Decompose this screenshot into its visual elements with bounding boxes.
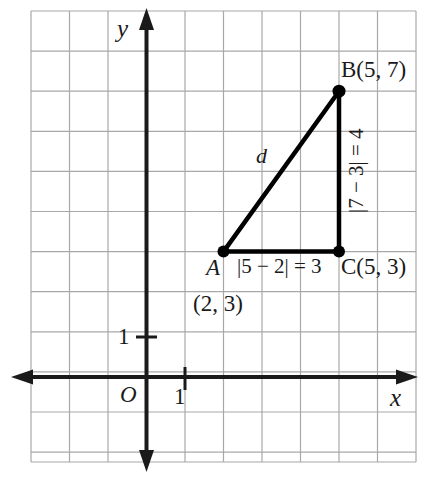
origin-label: O <box>120 383 137 406</box>
y-axis-tick-label-1: 1 <box>118 325 130 348</box>
x-axis-left-arrow <box>11 370 33 385</box>
point-b-dot <box>333 85 346 98</box>
point-a-coordinates: (2, 3) <box>193 292 243 315</box>
point-a-label: A <box>206 256 220 279</box>
point-c-label: C(5, 3) <box>341 255 406 278</box>
hypotenuse-distance-label: d <box>256 145 267 167</box>
point-b-label: B(5, 7) <box>341 58 406 81</box>
coordinate-plane-figure: y x O 1 1 B(5, 7) C(5, 3) A (2, 3) d |5 … <box>0 0 435 482</box>
axis-lines <box>22 24 404 455</box>
x-axis-tick-label-1: 1 <box>174 385 186 408</box>
horizontal-leg-length-label: |5 − 2| = 3 <box>237 256 322 277</box>
x-axis-label: x <box>390 385 401 410</box>
y-axis-down-arrow <box>139 450 154 472</box>
y-axis-label: y <box>117 16 128 41</box>
vertical-leg-length-label: |7 − 3| = 4 <box>346 128 367 213</box>
axis-ticks <box>136 337 185 390</box>
